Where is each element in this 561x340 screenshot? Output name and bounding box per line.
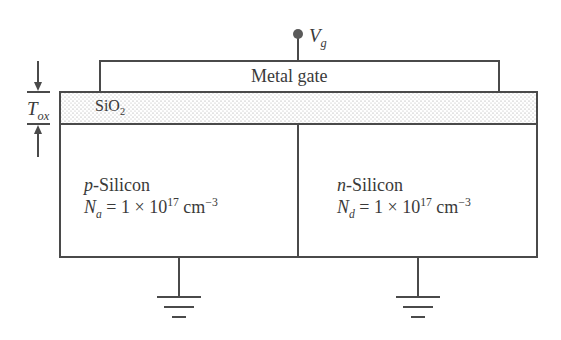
ground-right	[396, 257, 440, 317]
oxide-label: SiO2	[95, 98, 125, 114]
gate-terminal	[293, 29, 303, 61]
ground-left	[157, 257, 201, 317]
n-doping-label: Nd = 1 × 1017 cm−3	[337, 198, 471, 216]
terminal-dot-icon	[293, 29, 303, 39]
n-silicon-label: n-Silicon	[337, 176, 403, 194]
gate-voltage-label: Vg	[309, 26, 327, 45]
mos-diagram	[0, 0, 561, 340]
oxide-layer	[60, 92, 537, 124]
arrow-down-icon	[34, 82, 42, 91]
p-silicon-label: p-Silicon	[84, 176, 150, 194]
metal-gate-label: Metal gate	[251, 67, 327, 85]
p-doping-label: Na = 1 × 1017 cm−3	[84, 198, 218, 216]
arrow-up-icon	[34, 125, 42, 134]
tox-label: Tox	[27, 99, 49, 118]
